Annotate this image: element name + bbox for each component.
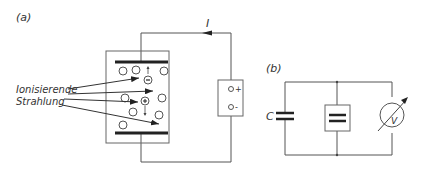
- arrow-down-icon: [144, 113, 147, 116]
- arrow-up-icon: [147, 66, 150, 69]
- current-arrow-icon: [202, 31, 212, 36]
- negative-terminal-label: -: [235, 103, 238, 112]
- voltage-source: + -: [218, 80, 243, 116]
- molecule-icon: [119, 67, 127, 75]
- panel-a: (a) I: [16, 11, 243, 162]
- voltmeter-label: V: [391, 116, 398, 126]
- molecule-icon: [158, 94, 166, 102]
- molecule-icon: [121, 94, 129, 102]
- radiation-label-line2: Strahlung: [16, 96, 65, 107]
- panel-b: (b) C V: [266, 62, 408, 156]
- panel-a-label: (a): [16, 11, 31, 24]
- molecule-icon: [119, 121, 127, 129]
- capacitor-c: C: [266, 110, 294, 123]
- radiation-ray: [68, 91, 153, 94]
- current-label: I: [206, 17, 209, 30]
- ionization-chamber: [106, 51, 169, 143]
- top-wire: [141, 33, 231, 80]
- ionization-chamber-diagram: (a) I: [0, 0, 428, 170]
- negative-terminal-icon: [229, 105, 234, 110]
- radiation-label-line1: Ionisierende: [16, 84, 77, 95]
- positive-terminal-label: +: [235, 85, 242, 94]
- radiation-ray: [68, 78, 139, 89]
- positive-terminal-icon: [229, 87, 234, 92]
- molecule-icon: [129, 108, 137, 116]
- molecule-icon: [160, 67, 168, 75]
- molecule-icon: [155, 111, 163, 119]
- molecule-icon: [132, 66, 140, 74]
- panel-b-label: (b): [266, 62, 282, 75]
- ionizing-radiation: Ionisierende Strahlung: [16, 78, 159, 124]
- chamber-capacitor: [325, 105, 350, 131]
- negative-ion: [144, 66, 152, 84]
- voltmeter: V: [378, 97, 408, 131]
- capacitor-label: C: [266, 110, 274, 123]
- chamber-box: [325, 105, 350, 131]
- positive-ion: [141, 97, 149, 116]
